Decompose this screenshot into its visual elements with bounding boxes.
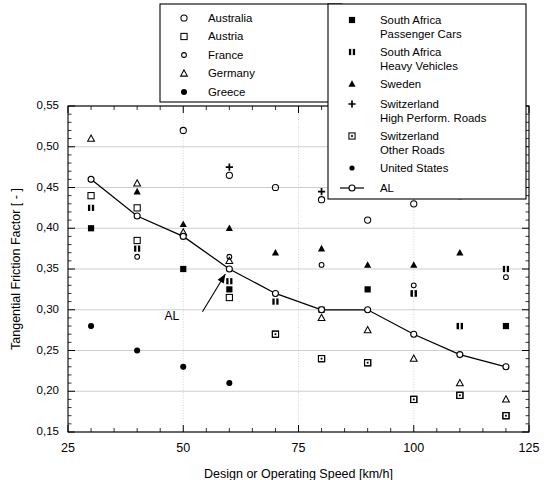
legend-label-switzerland: Switzerland [380, 98, 439, 110]
legend-marker-switzerland-dot [351, 135, 353, 137]
data-point-dot [275, 333, 277, 335]
x-tick-label: 125 [519, 441, 540, 455]
data-point [135, 348, 140, 353]
legend-label-switzerland-line2: Other Roads [380, 144, 445, 156]
data-point-slot [275, 298, 277, 305]
al-data-point [457, 352, 463, 358]
legend-label-south-africa: South Africa [380, 14, 442, 26]
data-point [227, 381, 232, 386]
legend-label-switzerland-line2: High Perform. Roads [380, 112, 487, 124]
data-point-dot [505, 415, 507, 417]
al-data-point [180, 233, 186, 239]
data-point-slot [229, 278, 231, 285]
data-point-slot [459, 323, 461, 330]
data-point-slot [136, 245, 138, 252]
annotation-label: AL [164, 309, 179, 323]
legend-marker-greece [181, 89, 187, 95]
data-point [503, 323, 509, 329]
legend-label-france: France [208, 49, 243, 61]
legend-marker-south-africa-slot [351, 49, 353, 56]
chart-figure: 0,150,200,250,300,350,400,450,500,552550… [0, 0, 547, 480]
data-point [88, 225, 94, 231]
x-axis-title: Design or Operating Speed [km/h] [204, 467, 393, 480]
al-data-point [88, 176, 94, 182]
data-point-dot [321, 358, 323, 360]
data-point [226, 286, 232, 292]
y-tick-label: 0,35 [37, 262, 59, 274]
al-data-point [365, 307, 371, 313]
al-data-point [134, 213, 140, 219]
data-point [88, 323, 93, 328]
x-tick-label: 100 [403, 441, 424, 455]
legend-label-switzerland: Switzerland [380, 130, 439, 142]
legend-label-south-africa-line2: Heavy Vehicles [380, 60, 458, 72]
al-data-point [319, 307, 325, 313]
y-tick-label: 0,15 [37, 425, 59, 437]
al-data-point [272, 290, 278, 296]
data-point-slot [505, 266, 507, 273]
legend-marker-south-africa [349, 17, 355, 23]
data-point [365, 286, 371, 292]
y-tick-label: 0,45 [37, 181, 59, 193]
legend-label-south-africa-line2: Passenger Cars [380, 28, 462, 40]
y-tick-label: 0,25 [37, 344, 59, 356]
legend-label-sweden: Sweden [380, 78, 421, 90]
legend-marker-united-states [349, 165, 354, 170]
x-tick-label: 75 [292, 441, 306, 455]
legend-label-al: AL [380, 182, 394, 194]
legend-label-austria: Austria [208, 30, 244, 42]
y-tick-label: 0,50 [37, 140, 59, 152]
legend-label-united-states: United States [380, 162, 449, 174]
legend-label-germany: Germany [208, 67, 255, 79]
y-axis-title: Tangential Friction Factor [ - ] [9, 188, 23, 350]
data-point-dot [459, 394, 461, 396]
y-tick-label: 0,30 [37, 303, 59, 315]
al-data-point [226, 266, 232, 272]
data-point-slot [413, 290, 415, 297]
data-point-dot [367, 362, 369, 364]
legend-marker-al [349, 185, 355, 191]
data-point-slot [90, 204, 92, 211]
x-tick-label: 25 [61, 441, 75, 455]
data-point [180, 266, 186, 272]
y-tick-label: 0,20 [37, 384, 59, 396]
legend-label-greece: Greece [208, 86, 245, 98]
al-data-point [411, 331, 417, 337]
data-point-dot [413, 399, 415, 401]
y-tick-label: 0,40 [37, 221, 59, 233]
y-tick-label: 0,55 [37, 99, 59, 111]
legend-label-australia: Australia [208, 12, 253, 24]
friction-factor-scatter-chart: 0,150,200,250,300,350,400,450,500,552550… [0, 0, 547, 480]
x-tick-label: 50 [176, 441, 190, 455]
al-data-point [503, 364, 509, 370]
data-point [181, 364, 186, 369]
legend-label-south-africa: South Africa [380, 46, 442, 58]
